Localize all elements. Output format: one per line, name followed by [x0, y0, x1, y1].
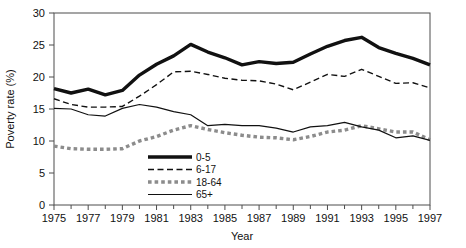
x-axis-title: Year	[231, 230, 254, 242]
x-tick-label: 1979	[110, 212, 134, 224]
chart-legend: 0-56-1718-6465+	[148, 152, 222, 201]
poverty-rate-line-chart: 051015202530 197519771979198119831985198…	[0, 0, 466, 248]
legend-label-6-17: 6-17	[196, 164, 216, 175]
x-tick-label: 1975	[42, 212, 66, 224]
x-tick-label: 1981	[144, 212, 168, 224]
x-tick-label: 1989	[281, 212, 305, 224]
x-tick-label: 1977	[76, 212, 100, 224]
x-tick-label: 1997	[418, 212, 442, 224]
y-tick-label: 10	[33, 135, 45, 147]
y-tick-label: 25	[33, 39, 45, 51]
chart-canvas: 051015202530 197519771979198119831985198…	[0, 0, 466, 248]
y-tick-label: 30	[33, 7, 45, 19]
legend-label-0-5: 0-5	[196, 152, 211, 163]
x-tick-label: 1995	[384, 212, 408, 224]
x-axis: 1975197719791981198319851987198919911993…	[42, 205, 442, 224]
legend-label-18-64: 18-64	[196, 177, 222, 188]
data-series-group	[54, 37, 430, 149]
series-line-0-5	[54, 37, 430, 95]
y-tick-label: 20	[33, 71, 45, 83]
plot-frame	[54, 13, 430, 205]
x-tick-label: 1985	[213, 212, 237, 224]
x-tick-label: 1987	[247, 212, 271, 224]
y-tick-label: 15	[33, 103, 45, 115]
y-tick-label: 5	[39, 167, 45, 179]
x-tick-label: 1991	[315, 212, 339, 224]
plot-border	[54, 13, 430, 205]
y-tick-label: 0	[39, 199, 45, 211]
series-line-6-17	[54, 69, 430, 107]
y-axis: 051015202530	[33, 7, 54, 211]
x-tick-label: 1983	[178, 212, 202, 224]
y-axis-title: Poverty rate (%)	[4, 69, 16, 148]
legend-label-65plus: 65+	[196, 189, 213, 200]
x-tick-label: 1993	[349, 212, 373, 224]
